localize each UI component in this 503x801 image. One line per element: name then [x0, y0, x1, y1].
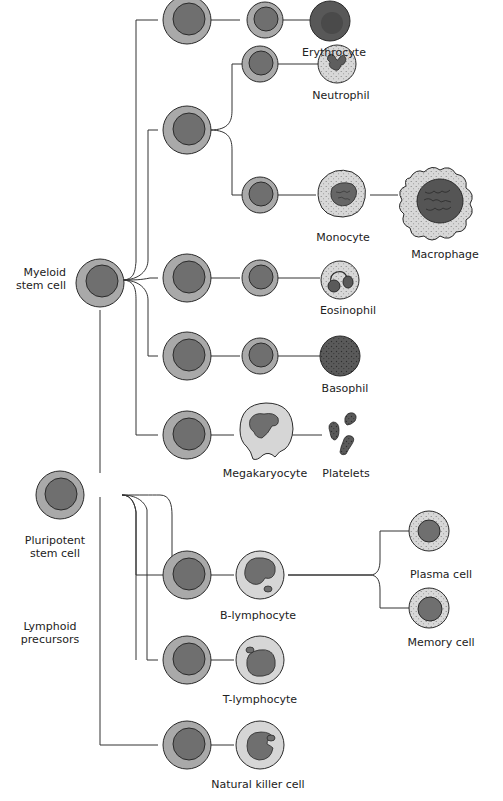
label-megakaryocyte: Megakaryocyte: [223, 467, 307, 480]
label-pluripotent-stem-cell: Pluripotent stem cell: [25, 534, 85, 560]
precursor-cells: [242, 2, 283, 374]
label-platelets: Platelets: [322, 467, 369, 480]
label-line: Lymphoid: [21, 620, 79, 633]
label-monocyte: Monocyte: [316, 231, 370, 244]
nk-cell: [236, 721, 284, 769]
macrophage-cell: [399, 167, 472, 240]
label-line: stem cell: [10, 279, 66, 292]
eosinophil-cell: [321, 261, 359, 299]
label-line: Myeloid: [10, 266, 66, 279]
erythrocyte-cell: [310, 1, 350, 41]
label-erythrocyte: Erythrocyte: [302, 46, 366, 59]
label-line: Pluripotent: [25, 534, 85, 547]
t-lymphocyte-cell: [236, 636, 284, 684]
myeloid-stem-cell: [76, 259, 124, 307]
label-nk-cell: Natural killer cell: [211, 778, 304, 791]
platelets: [329, 413, 356, 455]
label-eosinophil: Eosinophil: [320, 304, 376, 317]
label-line: precursors: [21, 633, 79, 646]
hematopoiesis-diagram: [0, 0, 503, 801]
b-lymphocyte-cell: [236, 551, 284, 599]
label-basophil: Basophil: [322, 382, 369, 395]
memory-cell: [409, 588, 449, 628]
label-t-lymphocyte: T-lymphocyte: [223, 693, 297, 706]
label-myeloid-stem-cell: Myeloid stem cell: [10, 266, 66, 292]
megakaryocyte-cell: [240, 403, 293, 460]
progenitor-cells: [163, 0, 211, 769]
basophil-cell: [320, 336, 360, 376]
label-b-lymphocyte: B-lymphocyte: [220, 609, 296, 622]
label-lymphoid-precursors: Lymphoid precursors: [21, 620, 79, 646]
label-macrophage: Macrophage: [411, 248, 479, 261]
monocyte-cell: [318, 170, 365, 217]
plasma-cell: [409, 511, 449, 551]
label-neutrophil: Neutrophil: [312, 89, 369, 102]
pluripotent-stem-cell: [36, 471, 84, 519]
label-line: stem cell: [25, 547, 85, 560]
label-plasma-cell: Plasma cell: [410, 568, 472, 581]
label-memory-cell: Memory cell: [407, 636, 474, 649]
